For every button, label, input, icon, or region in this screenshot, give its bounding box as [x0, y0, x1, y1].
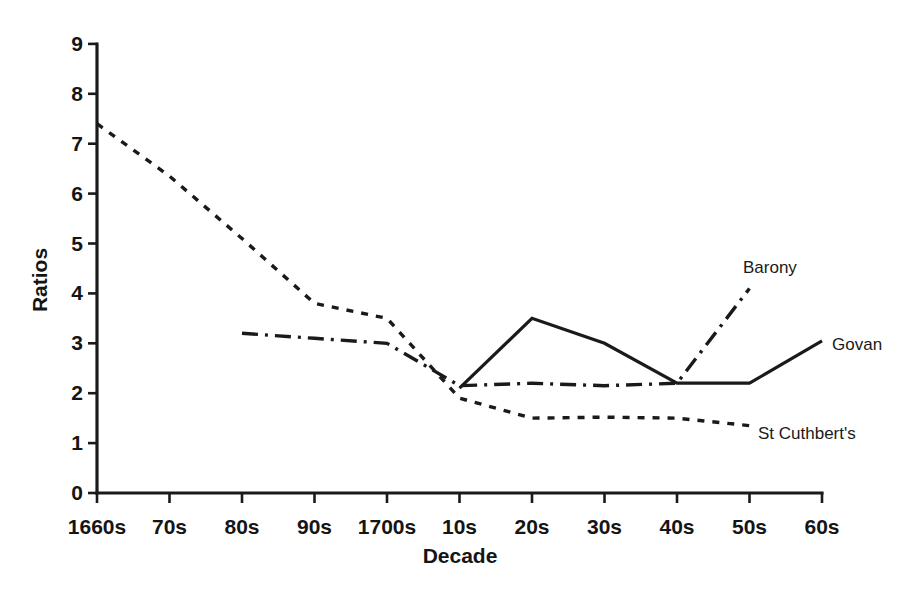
- y-axis-tick-label: 5: [55, 232, 83, 256]
- x-axis-tick-label: 1700s: [358, 515, 416, 539]
- x-axis-tick-label: 10s: [442, 515, 477, 539]
- y-axis-tick-label: 6: [55, 182, 83, 206]
- x-axis-tick-label: 90s: [297, 515, 332, 539]
- series-label-barony: Barony: [743, 258, 797, 278]
- series-line-govan: [460, 318, 823, 388]
- x-axis-tick-label: 40s: [659, 515, 694, 539]
- axes: [88, 44, 822, 503]
- y-axis-tick-label: 7: [55, 132, 83, 156]
- y-axis-tick-label: 9: [55, 32, 83, 56]
- x-axis-tick-label: 30s: [587, 515, 622, 539]
- y-axis-tick-label: 3: [55, 331, 83, 355]
- x-axis-tick-label: 60s: [804, 515, 839, 539]
- series-lines: [97, 124, 822, 426]
- x-axis-tick-label: 20s: [514, 515, 549, 539]
- x-axis-title: Decade: [423, 544, 498, 568]
- y-axis-tick-label: 1: [55, 431, 83, 455]
- series-label-st-cuthbert-s: St Cuthbert's: [758, 424, 856, 444]
- series-line-st-cuthbert-s: [97, 124, 750, 426]
- line-chart: 0123456789 1660s70s80s90s1700s10s20s30s4…: [0, 0, 920, 594]
- x-axis-tick-label: 70s: [152, 515, 187, 539]
- y-axis-tick-label: 8: [55, 82, 83, 106]
- x-axis-tick-label: 80s: [224, 515, 259, 539]
- y-axis-tick-label: 4: [55, 281, 83, 305]
- x-axis-tick-label: 1660s: [68, 515, 126, 539]
- series-label-govan: Govan: [832, 335, 882, 355]
- y-axis-title: Ratios: [28, 248, 52, 312]
- y-axis-tick-label: 2: [55, 381, 83, 405]
- x-axis-tick-label: 50s: [732, 515, 767, 539]
- plot-area: [0, 0, 920, 594]
- y-axis-tick-label: 0: [55, 481, 83, 505]
